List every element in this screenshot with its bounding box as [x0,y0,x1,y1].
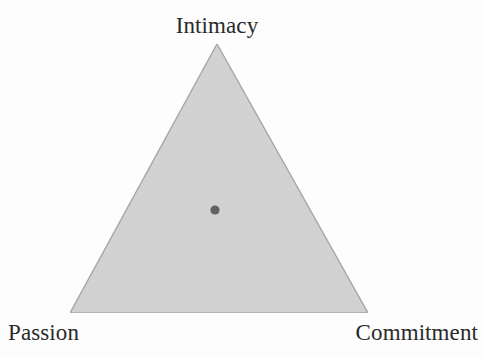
vertex-label-commitment: Commitment [0,320,478,346]
triangle-shape [70,44,368,313]
data-point [210,205,219,214]
vertex-label-intimacy: Intimacy [0,13,434,39]
love-triangle-diagram: Intimacy Passion Commitment [0,0,484,357]
triangle-plot-area [0,0,484,357]
